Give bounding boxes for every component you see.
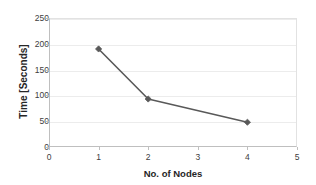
gridline [50, 19, 296, 20]
y-tick-label: 100 [9, 91, 49, 100]
x-tick-mark [297, 147, 298, 150]
x-tick-label: 2 [133, 153, 163, 162]
x-tick-label: 0 [34, 153, 64, 162]
y-tick-label: 0 [9, 143, 49, 152]
y-tick-label: 250 [9, 14, 49, 23]
y-tick-mark [46, 95, 49, 96]
gridline [50, 71, 296, 72]
gridline [50, 122, 296, 123]
gridline [50, 96, 296, 97]
x-tick-mark [99, 147, 100, 150]
plot-area [49, 18, 297, 147]
y-tick-mark [46, 18, 49, 19]
y-tick-label: 200 [9, 40, 49, 49]
y-tick-mark [46, 121, 49, 122]
y-tick-mark [46, 70, 49, 71]
x-tick-label: 4 [232, 153, 262, 162]
x-tick-mark [198, 147, 199, 150]
x-tick-label: 1 [84, 153, 114, 162]
x-axis-title: No. of Nodes [49, 168, 297, 179]
y-tick-mark [46, 44, 49, 45]
y-tick-label: 50 [9, 117, 49, 126]
x-tick-mark [148, 147, 149, 150]
y-axis-title: Time [Seconds] [18, 7, 29, 157]
x-tick-mark [49, 147, 50, 150]
gridline [50, 45, 296, 46]
y-tick-label: 150 [9, 65, 49, 74]
x-tick-mark [247, 147, 248, 150]
line-chart: Time [Seconds] 250 200 150 100 50 0 0 1 … [0, 0, 316, 185]
x-tick-label: 3 [183, 153, 213, 162]
x-tick-label: 5 [282, 153, 312, 162]
